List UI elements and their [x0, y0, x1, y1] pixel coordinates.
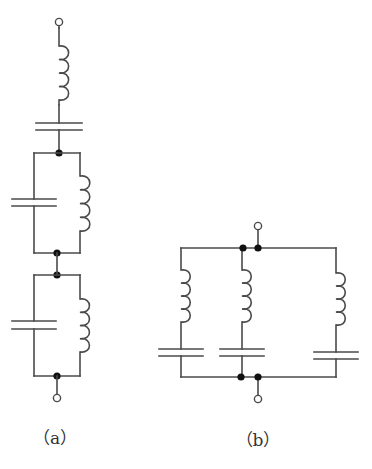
inductor-icon: [80, 176, 90, 231]
inductor-icon: [336, 273, 345, 325]
circuit-b: [159, 222, 358, 402]
terminal-icon: [254, 222, 261, 229]
terminal-icon: [55, 18, 62, 25]
circuit-b-label: （b）: [236, 426, 281, 451]
terminal-icon: [53, 394, 60, 401]
parallel-lc-tank: [12, 153, 90, 253]
capacitor-icon: [314, 352, 358, 359]
capacitor-icon: [36, 123, 82, 130]
terminal-icon: [254, 395, 261, 402]
circuit-a-label: （a）: [33, 424, 77, 449]
inductor-icon: [181, 270, 190, 322]
series-lc-branch: [159, 248, 203, 377]
junction-node: [239, 244, 246, 251]
capacitor-icon: [12, 321, 56, 329]
capacitor-icon: [220, 349, 264, 356]
capacitor-icon: [159, 349, 203, 356]
junction-node: [254, 373, 261, 380]
series-lc-branch: [220, 248, 264, 377]
inductor-icon: [242, 270, 251, 322]
circuit-diagram: [0, 0, 372, 469]
parallel-lc-tank: [12, 275, 89, 376]
junction-node: [237, 373, 244, 380]
inductor-icon: [59, 46, 69, 100]
junction-node: [254, 244, 261, 251]
inductor-icon: [80, 299, 89, 352]
series-lc-branch: [314, 248, 358, 377]
capacitor-icon: [12, 199, 56, 206]
circuit-a: [12, 18, 90, 401]
